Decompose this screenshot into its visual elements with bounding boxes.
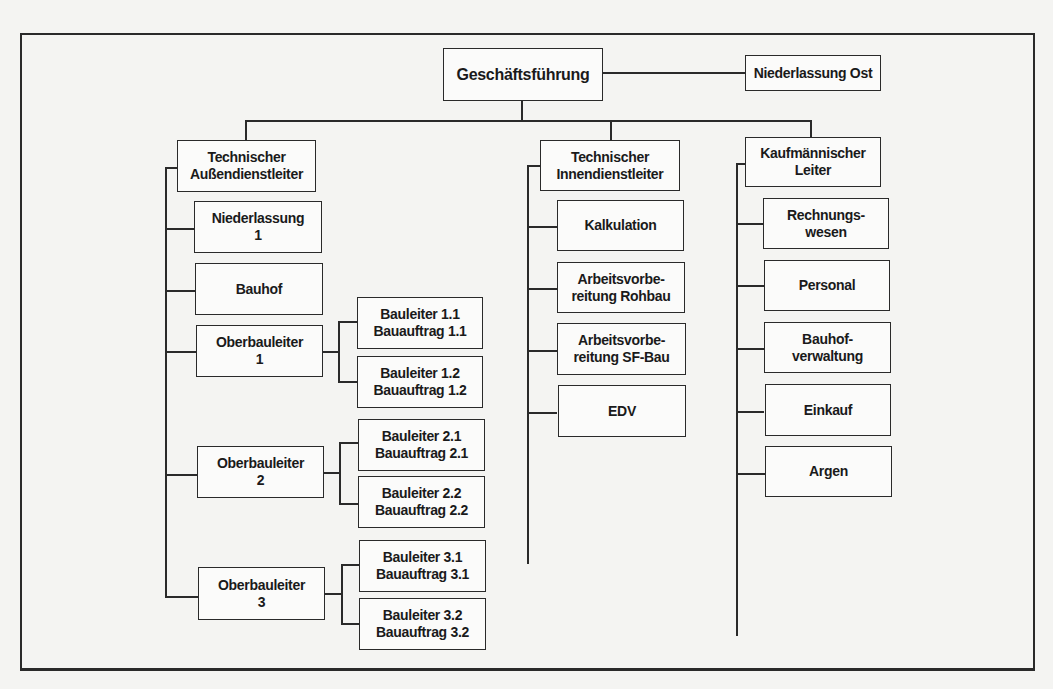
connector: [165, 596, 198, 598]
connector: [736, 163, 738, 636]
node-bauleiter-1-2: Bauleiter 1.2 Bauauftrag 1.2: [357, 356, 483, 408]
node-bauleiter-2-2: Bauleiter 2.2 Bauauftrag 2.2: [358, 476, 485, 528]
node-oberbauleiter-3: Oberbauleiter 3: [198, 567, 325, 620]
node-kalkulation: Kalkulation: [557, 200, 684, 251]
connector: [527, 288, 557, 290]
connector: [338, 321, 358, 323]
node-personal: Personal: [764, 260, 890, 311]
connector: [527, 350, 557, 352]
connector: [325, 593, 341, 595]
connector: [736, 348, 764, 350]
node-arbeitsvorbereitung-sf-bau: Arbeitsvorbe- reitung SF-Bau: [557, 323, 686, 375]
connector: [245, 120, 247, 141]
connector: [736, 285, 764, 287]
node-geschaeftsfuehrung: Geschäftsführung: [443, 48, 603, 101]
node-bauhof: Bauhof: [195, 263, 323, 315]
connector: [165, 351, 196, 353]
connector: [527, 165, 529, 564]
connector: [165, 290, 195, 292]
connector: [339, 442, 341, 504]
connector: [610, 120, 612, 141]
connector: [323, 351, 339, 353]
connector: [527, 412, 557, 414]
connector: [341, 564, 343, 624]
node-kaufmaennischer-leiter: Kaufmännischer Leiter: [745, 137, 881, 187]
connector: [339, 442, 358, 444]
node-technischer-aussendienstleiter: Technischer Außendienstleiter: [177, 140, 316, 192]
connector: [527, 226, 557, 228]
connector: [603, 72, 745, 74]
node-bauhofverwaltung: Bauhof- verwaltung: [764, 322, 891, 373]
node-bauleiter-3-2: Bauleiter 3.2 Bauauftrag 3.2: [359, 598, 486, 650]
connector: [341, 564, 359, 566]
connector: [165, 474, 197, 476]
node-argen: Argen: [765, 446, 892, 497]
node-niederlassung-ost: Niederlassung Ost: [745, 55, 881, 91]
node-oberbauleiter-2: Oberbauleiter 2: [197, 446, 324, 498]
connector: [736, 411, 764, 413]
connector: [736, 223, 764, 225]
node-einkauf: Einkauf: [765, 384, 891, 436]
node-oberbauleiter-1: Oberbauleiter 1: [196, 325, 323, 377]
node-niederlassung-1: Niederlassung 1: [194, 201, 322, 253]
connector: [245, 120, 811, 122]
connector: [338, 381, 358, 383]
connector: [341, 623, 359, 625]
node-bauleiter-2-1: Bauleiter 2.1 Bauauftrag 2.1: [358, 419, 485, 471]
connector: [338, 321, 340, 382]
connector: [165, 228, 195, 230]
connector: [527, 165, 540, 167]
connector: [736, 473, 765, 475]
connector: [521, 100, 523, 121]
connector: [324, 472, 340, 474]
node-technischer-innendienstleiter: Technischer Innendienstleiter: [540, 140, 680, 191]
node-bauleiter-1-1: Bauleiter 1.1 Bauauftrag 1.1: [357, 297, 483, 349]
node-edv: EDV: [558, 385, 686, 437]
node-rechnungswesen: Rechnungs- wesen: [763, 198, 889, 249]
connector: [165, 167, 167, 597]
node-arbeitsvorbereitung-rohbau: Arbeitsvorbe- reitung Rohbau: [557, 262, 685, 313]
connector: [339, 503, 358, 505]
node-bauleiter-3-1: Bauleiter 3.1 Bauauftrag 3.1: [359, 540, 486, 592]
